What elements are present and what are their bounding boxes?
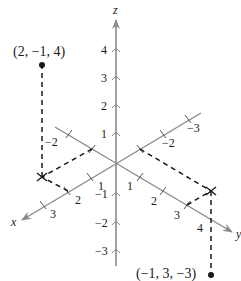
x-axis xyxy=(22,113,201,220)
z-tick-neg2: −2 xyxy=(95,216,108,230)
y-axis-label: y xyxy=(235,227,241,241)
point-1-dot xyxy=(39,62,45,68)
coordinate-diagram: z x y 4 3 2 1 −1 −2 −3 1 2 3 −2 −3 1 2 3… xyxy=(0,0,241,281)
x-axis-label: x xyxy=(10,215,17,229)
z-axis-label: z xyxy=(112,3,118,17)
construction-lines-point-1 xyxy=(42,66,92,191)
z-tick-2: 2 xyxy=(101,99,107,113)
y-tick-neg2: −2 xyxy=(45,135,58,149)
x-tick-neg2: −2 xyxy=(162,136,175,150)
z-tick-neg3: −3 xyxy=(95,244,108,258)
y-tick-2: 2 xyxy=(151,194,157,208)
y-tick-4: 4 xyxy=(197,221,203,235)
point-1-label: (2, −1, 4) xyxy=(13,44,66,60)
x-tick-3: 3 xyxy=(50,207,56,221)
z-axis xyxy=(112,20,120,266)
z-tick-3: 3 xyxy=(101,71,107,85)
y-axis xyxy=(55,127,232,232)
x-tick-1: 1 xyxy=(98,179,104,193)
y-tick-1: 1 xyxy=(127,179,133,193)
point-2-label: (−1, 3, −3) xyxy=(136,266,196,281)
x-tick-neg3: −3 xyxy=(187,121,200,135)
y-tick-3: 3 xyxy=(174,208,180,222)
z-tick-4: 4 xyxy=(101,43,107,57)
point-2-dot xyxy=(208,272,214,278)
z-tick-1: 1 xyxy=(101,127,107,141)
x-tick-2: 2 xyxy=(75,193,81,207)
